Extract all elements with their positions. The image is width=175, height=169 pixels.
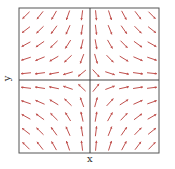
arrow-head-icon [95,18,98,20]
y-axis-label: y [1,76,12,82]
arrow-head-icon [95,141,98,143]
arrow-head-icon [21,86,23,89]
arrow-head-icon [155,86,157,89]
arrow-head-icon [21,72,23,75]
vector-field-plot [0,0,175,169]
arrow-field [21,10,157,150]
arrow-head-icon [95,32,98,34]
x-axis-label: x [87,153,93,164]
arrow-head-icon [80,141,83,143]
arrow-head-icon [155,72,157,75]
arrow-head-icon [95,126,98,128]
arrow-head-icon [80,18,83,20]
